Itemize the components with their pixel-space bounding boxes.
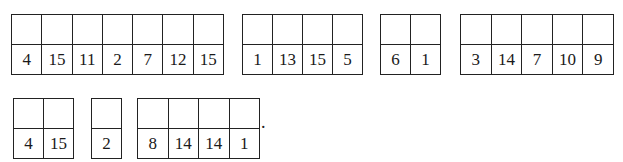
terminal-period: . [261,112,266,133]
word-box-group-4: 3 14 7 10 9 [460,14,614,75]
answer-cell[interactable] [243,15,273,45]
answer-cell[interactable] [303,15,333,45]
answer-cell[interactable] [73,15,103,45]
answer-cell[interactable] [133,15,163,45]
code-number-cell: 13 [273,45,303,75]
word-box-group-3: 6 1 [380,14,441,75]
word-box-group-7: 8 14 14 1 [137,98,260,159]
code-number-cell: 11 [73,45,103,75]
answer-cell[interactable] [169,99,200,129]
code-number-cell: 15 [194,45,224,75]
answer-cell[interactable] [553,15,584,45]
code-number-cell: 15 [303,45,333,75]
answer-cell[interactable] [194,15,224,45]
code-number-cell: 3 [461,45,492,75]
answer-cell[interactable] [138,99,169,129]
answer-cell[interactable] [92,99,122,129]
code-number-cell: 7 [522,45,553,75]
code-number-cell: 7 [133,45,163,75]
code-number-cell: 1 [411,45,441,75]
answer-cell[interactable] [199,99,230,129]
word-box-group-5: 4 15 [13,98,74,159]
answer-cell[interactable] [12,15,42,45]
answer-cell[interactable] [230,99,261,129]
code-number-cell: 10 [553,45,584,75]
code-number-cell: 9 [583,45,614,75]
answer-cell[interactable] [163,15,193,45]
word-box-group-2: 1 13 15 5 [242,14,363,75]
answer-cell[interactable] [461,15,492,45]
word-box-group-1: 4 15 11 2 7 12 15 [11,14,224,75]
answer-cell[interactable] [42,15,72,45]
code-number-cell: 1 [230,129,261,159]
code-number-cell: 12 [163,45,193,75]
answer-cell[interactable] [333,15,363,45]
code-number-cell: 4 [14,129,44,159]
answer-cell[interactable] [492,15,523,45]
code-number-cell: 2 [103,45,133,75]
code-number-cell: 2 [92,129,122,159]
code-number-cell: 14 [492,45,523,75]
answer-cell[interactable] [522,15,553,45]
code-number-cell: 14 [169,129,200,159]
code-number-cell: 15 [42,45,72,75]
code-number-cell: 4 [12,45,42,75]
word-box-group-6: 2 [91,98,122,159]
code-number-cell: 6 [381,45,411,75]
answer-cell[interactable] [273,15,303,45]
code-number-cell: 15 [44,129,74,159]
answer-cell[interactable] [381,15,411,45]
answer-cell[interactable] [411,15,441,45]
answer-cell[interactable] [103,15,133,45]
code-number-cell: 5 [333,45,363,75]
code-number-cell: 8 [138,129,169,159]
code-number-cell: 14 [199,129,230,159]
answer-cell[interactable] [14,99,44,129]
code-number-cell: 1 [243,45,273,75]
answer-cell[interactable] [44,99,74,129]
answer-cell[interactable] [583,15,614,45]
